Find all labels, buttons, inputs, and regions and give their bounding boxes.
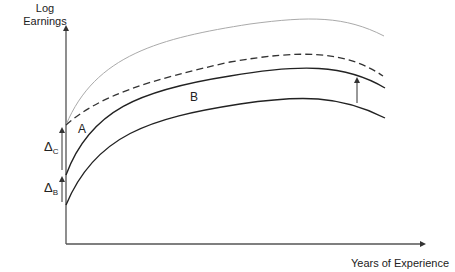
y-axis-label: Log Earnings xyxy=(20,2,70,28)
y-axis-label-line1: Log xyxy=(20,2,70,15)
x-axis-label: Years of Experience xyxy=(351,257,449,270)
delta-b-label: ΔB xyxy=(44,181,58,199)
delta-c-symbol: Δ xyxy=(44,139,53,154)
delta-b-symbol: Δ xyxy=(44,180,53,195)
delta-b-subscript: B xyxy=(53,188,58,197)
bottom-curve xyxy=(66,98,385,205)
dashed-curve xyxy=(66,54,383,125)
delta-c-subscript: C xyxy=(53,147,59,156)
diagram-canvas xyxy=(0,0,455,272)
middle-curve xyxy=(66,68,385,175)
top-gray-curve xyxy=(66,19,384,125)
region-label-b: B xyxy=(190,91,198,104)
region-label-a: A xyxy=(78,123,86,136)
delta-c-label: ΔC xyxy=(44,140,58,158)
y-axis-label-line2: Earnings xyxy=(20,15,70,28)
